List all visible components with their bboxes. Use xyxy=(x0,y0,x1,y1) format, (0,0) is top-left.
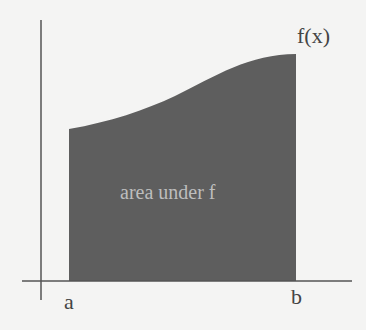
region-label: area under f xyxy=(120,182,216,202)
diagram-graphic xyxy=(0,0,366,330)
upper-bound-label: b xyxy=(291,286,302,308)
shaded-area xyxy=(69,54,296,281)
area-under-curve-diagram: f(x) area under f a b xyxy=(0,0,366,330)
lower-bound-label: a xyxy=(64,291,74,313)
curve-label: f(x) xyxy=(297,25,330,47)
